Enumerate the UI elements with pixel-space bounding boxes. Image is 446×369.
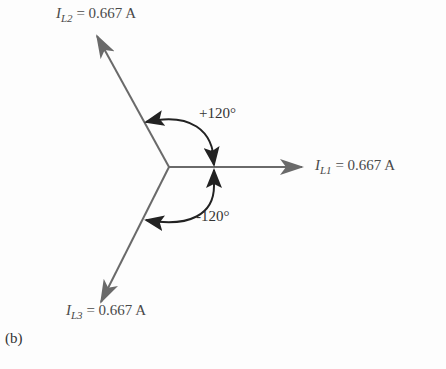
label-il3: IL3 = 0.667 A — [66, 302, 146, 321]
angle-minus-label: -120° — [196, 208, 230, 225]
angle-plus-label: +120° — [199, 105, 236, 122]
label-il1: IL1 = 0.667 A — [315, 157, 395, 176]
phasor-il2 — [97, 36, 169, 167]
figure-label: (b) — [5, 330, 23, 347]
phasor-il3 — [101, 167, 169, 302]
label-il2: IL2 = 0.667 A — [56, 5, 136, 24]
arc-plus-120 — [146, 119, 214, 164]
